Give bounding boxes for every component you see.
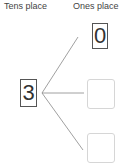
branch-line-bottom [42,93,83,150]
ones-digit-input-2[interactable] [87,79,115,109]
ones-digit-box-1: 0 [92,23,108,49]
ones-digit-input-3[interactable] [87,133,115,163]
branch-line-top [42,37,78,93]
tens-digit-box: 3 [20,79,37,107]
